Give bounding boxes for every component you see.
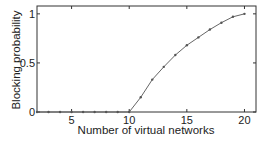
data-point bbox=[47, 111, 49, 113]
data-point bbox=[243, 13, 245, 15]
data-point bbox=[220, 21, 222, 23]
y-axis-label: Blocking probability bbox=[10, 10, 22, 109]
data-point bbox=[151, 78, 153, 80]
data-point bbox=[197, 36, 199, 38]
x-tick-label: 5 bbox=[69, 114, 75, 126]
data-point bbox=[163, 66, 165, 68]
data-point bbox=[82, 111, 84, 113]
data-point bbox=[70, 111, 72, 113]
y-tick-label: 0 bbox=[29, 106, 35, 118]
data-point bbox=[232, 16, 234, 18]
data-point bbox=[209, 28, 211, 30]
x-axis-label: Number of virtual networks bbox=[78, 124, 215, 136]
data-point bbox=[116, 111, 118, 113]
y-tick-label: 1 bbox=[29, 8, 35, 20]
data-point bbox=[128, 111, 130, 113]
data-point bbox=[36, 111, 38, 113]
data-point bbox=[186, 44, 188, 46]
data-point bbox=[59, 111, 61, 113]
data-point bbox=[93, 111, 95, 113]
data-point bbox=[174, 54, 176, 56]
line-chart: 510152000.51 Number of virtual networks … bbox=[0, 0, 263, 142]
data-point bbox=[140, 96, 142, 98]
data-point bbox=[105, 111, 107, 113]
x-tick-label: 20 bbox=[238, 114, 250, 126]
